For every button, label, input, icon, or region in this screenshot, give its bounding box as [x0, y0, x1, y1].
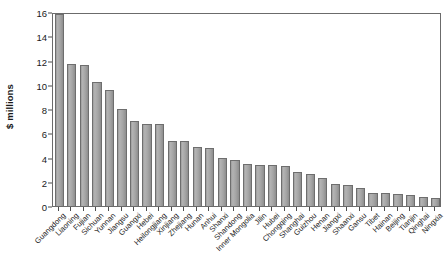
- bar: [155, 124, 164, 206]
- bar: [205, 148, 214, 206]
- y-axis-tick-label: 4: [42, 153, 47, 164]
- bar: [92, 82, 101, 206]
- plot-area: [53, 14, 440, 206]
- plot-frame: [52, 13, 441, 207]
- y-axis-tick-label: 2: [42, 177, 47, 188]
- y-axis-title: $ millions: [0, 0, 18, 213]
- y-axis-tick-label: 16: [36, 8, 47, 19]
- bar: [255, 165, 264, 206]
- bar: [268, 165, 277, 206]
- bar: [343, 185, 352, 206]
- bar: [243, 164, 252, 206]
- bar: [356, 188, 365, 206]
- bar: [218, 158, 227, 207]
- bar: [293, 172, 302, 206]
- bar: [105, 90, 114, 206]
- bar: [368, 193, 377, 206]
- bar: [168, 141, 177, 206]
- bar: [331, 184, 340, 206]
- bar: [406, 195, 415, 206]
- bar: [318, 178, 327, 206]
- bar: [130, 121, 139, 206]
- x-axis-category-labels: GuangdongLiaoningFujianSichuanYunnanJian…: [52, 211, 441, 275]
- bar: [67, 64, 76, 206]
- y-axis-tick-labels: 0246810121416: [18, 0, 52, 213]
- y-axis-tick-label: 6: [42, 129, 47, 140]
- bar: [55, 14, 64, 206]
- bar: [431, 198, 440, 206]
- y-axis-tick-label: 10: [36, 80, 47, 91]
- bar: [193, 147, 202, 206]
- bar: [393, 194, 402, 206]
- bar: [306, 174, 315, 206]
- y-axis-title-text: $ millions: [4, 84, 15, 129]
- bar: [117, 109, 126, 206]
- bar-chart: $ millions 0246810121416 GuangdongLiaoni…: [0, 0, 448, 275]
- bar: [142, 124, 151, 206]
- y-axis-tick-label: 12: [36, 56, 47, 67]
- y-axis-tick-label: 0: [42, 202, 47, 213]
- bar: [281, 166, 290, 206]
- bar: [180, 141, 189, 206]
- y-axis-tick-label: 8: [42, 105, 47, 116]
- bar: [419, 197, 428, 206]
- y-axis-tick-label: 14: [36, 32, 47, 43]
- bar: [80, 65, 89, 206]
- bar: [381, 193, 390, 206]
- bar: [230, 160, 239, 206]
